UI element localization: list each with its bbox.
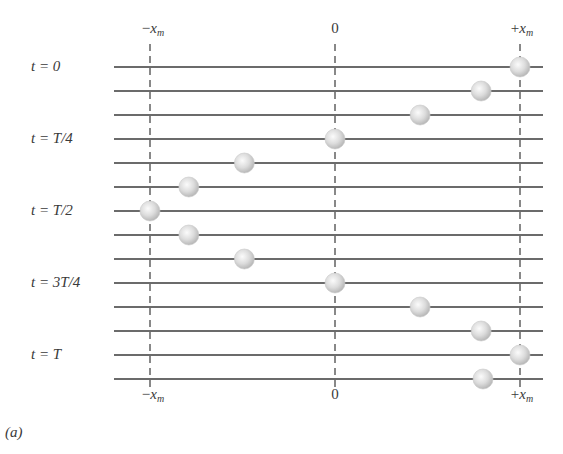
- time-label-full: t = T: [31, 346, 61, 363]
- time-label-0: t = 0: [31, 58, 60, 75]
- time-label-half: t = T/2: [31, 202, 73, 219]
- top-label-plus-xm: +xm: [511, 20, 533, 38]
- time-label-quarter: t = T/4: [31, 130, 73, 147]
- panel-label: (a): [5, 424, 23, 441]
- particle-ball: [471, 81, 491, 101]
- time-label-three-quarter: t = 3T/4: [31, 274, 80, 291]
- particle-ball: [510, 345, 530, 365]
- top-label-zero: 0: [331, 20, 339, 37]
- particle-ball: [325, 273, 345, 293]
- particle-ball: [179, 225, 199, 245]
- particle-ball: [471, 321, 491, 341]
- particle-ball: [473, 369, 493, 389]
- particle-ball: [410, 297, 430, 317]
- oscillation-diagram: [0, 0, 563, 454]
- particle-ball: [510, 57, 530, 77]
- particle-ball: [179, 177, 199, 197]
- reference-dashed-lines: [150, 44, 520, 389]
- particle-ball: [234, 153, 254, 173]
- particle-ball: [234, 249, 254, 269]
- top-label-minus-xm: −xm: [142, 20, 164, 38]
- bottom-label-plus-xm: +xm: [511, 386, 533, 404]
- bottom-label-minus-xm: −xm: [142, 386, 164, 404]
- particle-ball: [325, 129, 345, 149]
- particle-ball: [140, 201, 160, 221]
- bottom-label-zero: 0: [331, 386, 339, 403]
- particle-ball: [410, 105, 430, 125]
